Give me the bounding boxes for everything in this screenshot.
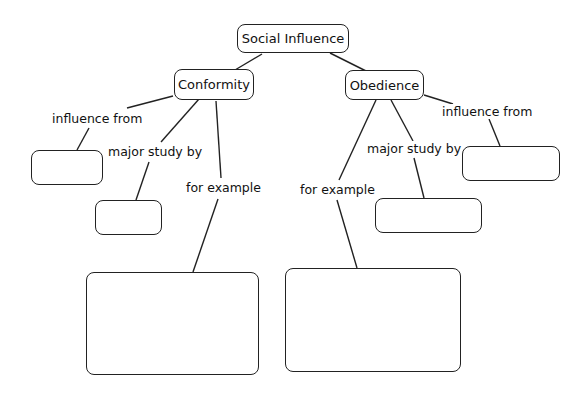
node-conformity-label: Conformity [178,77,250,92]
node-obedience-label: Obedience [350,78,420,93]
empty-box-conformity-major-study-by[interactable] [95,200,162,235]
link-label-conformity-for-example: for example [185,180,262,195]
empty-box-conformity-influence-from[interactable] [31,150,103,185]
link-label-obedience-influence-from: influence from [441,104,533,119]
link-label-obedience-major-study-by: major study by [366,141,462,156]
link-label-obedience-for-example: for example [299,182,376,197]
node-conformity[interactable]: Conformity [174,69,254,100]
empty-box-obedience-influence-from[interactable] [462,146,560,181]
empty-box-conformity-for-example[interactable] [86,272,259,375]
empty-box-obedience-major-study-by[interactable] [375,198,482,233]
root-node-label: Social Influence [242,31,345,46]
empty-box-obedience-for-example[interactable] [285,268,461,372]
link-label-conformity-major-study-by: major study by [107,144,203,159]
link-label-conformity-influence-from: influence from [51,111,143,126]
node-obedience[interactable]: Obedience [345,70,424,100]
root-node-social-influence[interactable]: Social Influence [237,24,349,53]
